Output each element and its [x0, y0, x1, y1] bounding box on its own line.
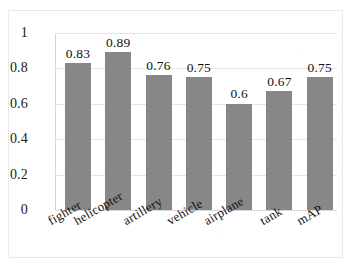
- bar-slot: 0.75: [186, 33, 212, 210]
- y-axis-tick-label: 0.6: [0, 97, 28, 111]
- y-axis-tick-label: 0.4: [0, 132, 28, 146]
- bar-value-label: 0.67: [267, 75, 291, 89]
- y-axis-tick-label: 0: [0, 203, 28, 217]
- y-axis-tick-label: 0.2: [0, 168, 28, 182]
- bar[interactable]: [105, 52, 131, 210]
- bar-value-label: 0.6: [230, 87, 247, 101]
- bar[interactable]: [186, 77, 212, 210]
- bar-slot: 0.67: [266, 33, 292, 210]
- bar-value-label: 0.75: [187, 61, 211, 75]
- bar[interactable]: [307, 77, 333, 210]
- bar-slot: 0.83: [65, 33, 91, 210]
- bar-slot: 0.89: [105, 33, 131, 210]
- y-axis-tick-label: 1: [0, 26, 28, 40]
- bar[interactable]: [266, 91, 292, 210]
- chart-frame: 0.830.890.760.750.60.670.75 00.20.40.60.…: [8, 10, 343, 258]
- bar-value-label: 0.75: [307, 61, 331, 75]
- plot-area: 0.830.890.760.750.60.670.75: [55, 33, 337, 210]
- bar-value-label: 0.89: [106, 36, 130, 50]
- bar-value-label: 0.76: [146, 59, 170, 73]
- bar-slot: 0.6: [226, 33, 252, 210]
- y-axis-tick-label: 0.8: [0, 61, 28, 75]
- bar-slot: 0.76: [146, 33, 172, 210]
- bar[interactable]: [65, 63, 91, 210]
- bar-slot: 0.75: [307, 33, 333, 210]
- bar[interactable]: [146, 75, 172, 210]
- bar-value-label: 0.83: [66, 47, 90, 61]
